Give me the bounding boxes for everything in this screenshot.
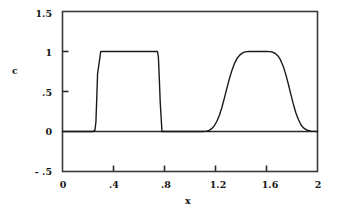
x-tick-label-0: 0 — [48, 180, 78, 190]
data-series-c — [63, 52, 318, 132]
x-tick-label-0-4: .4 — [99, 180, 129, 190]
x-axis-ticks — [114, 166, 267, 172]
x-tick-label-1-2: 1.2 — [203, 180, 233, 190]
y-tick-label-1: 1 — [4, 48, 52, 58]
x-axis-title: x — [185, 196, 191, 206]
y-axis-ticks — [63, 52, 69, 92]
chart-figure: 1.5 1 .5 0 - .5 c 0 .4 .8 1.2 1.6 2 x — [0, 0, 338, 213]
y-tick-label-0: 0 — [4, 127, 52, 137]
x-tick-label-2: 2 — [303, 180, 333, 190]
y-tick-label-neg-0-5: - .5 — [4, 167, 52, 177]
y-tick-label-0-5: .5 — [4, 88, 52, 98]
y-axis-title: c — [12, 66, 18, 76]
x-tick-label-0-8: .8 — [151, 180, 181, 190]
plot-frame — [63, 12, 318, 172]
y-tick-label-1-5: 1.5 — [4, 9, 52, 19]
x-tick-label-1-6: 1.6 — [255, 180, 285, 190]
